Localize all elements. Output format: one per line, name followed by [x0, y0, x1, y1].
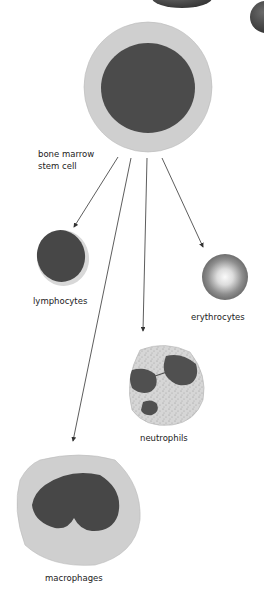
stem-cell-label-line2: stem cell: [38, 160, 77, 172]
stem-cell-label-line1: bone marrow: [38, 148, 94, 160]
neutrophils-label: neutrophils: [140, 432, 188, 444]
erythrocytes-label: erythrocytes: [191, 311, 245, 323]
stem-cell: [84, 22, 212, 152]
partial-cell-top: [152, 0, 212, 8]
erythrocyte-cell: [202, 254, 248, 300]
lymphocyte-cell: [33, 226, 94, 290]
neutrophil-cell: [129, 345, 204, 425]
macrophages-label: macrophages: [45, 572, 103, 584]
lymphocytes-label: lymphocytes: [33, 295, 87, 307]
arrow-to-lymphocytes: [74, 157, 118, 227]
partial-cell-right: [250, 1, 264, 33]
macrophage-cell: [17, 455, 140, 565]
arrow-to-neutrophils: [143, 158, 147, 331]
arrow-to-erythrocytes: [162, 158, 203, 247]
